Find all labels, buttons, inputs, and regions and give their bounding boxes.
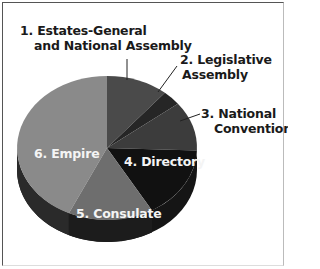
label-national-convention: 3. National Convention (201, 106, 288, 136)
label-empire: 6. Empire (34, 146, 99, 161)
label-directory: 4. Directory (124, 154, 205, 169)
leader-line-2 (158, 66, 177, 92)
label-estates-general: 1. Estates-General and National Assembly (20, 23, 192, 53)
label-legislative-assembly: 2. Legislative Assembly (180, 52, 272, 82)
label-consulate: 5. Consulate (76, 206, 162, 221)
